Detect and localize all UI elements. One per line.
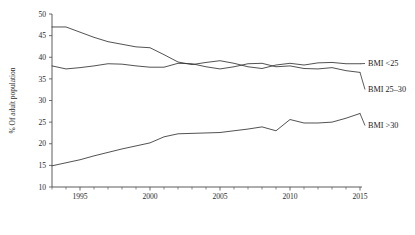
series-label-bmi-25: BMI <25 (368, 59, 398, 68)
y-tick-label: 45 (38, 31, 46, 40)
y-tick-label: 25 (38, 118, 46, 127)
series-label-leader (360, 72, 365, 89)
series-label-bmi-30: BMI >30 (368, 121, 398, 130)
chart-container: 101520253035404550 19952000200520102015 … (0, 0, 415, 235)
y-tick-label: 30 (38, 96, 46, 105)
series-label-bmi-25-30: BMI 25–30 (368, 85, 406, 94)
y-tick-label: 35 (38, 75, 46, 84)
y-tick-label: 15 (38, 161, 46, 170)
y-tick-label: 10 (38, 183, 46, 192)
y-axis-title: % Of adult population (8, 67, 17, 133)
series-line (52, 113, 360, 165)
y-tick-label: 20 (38, 139, 46, 148)
x-axis: 19952000200520102015 (52, 187, 368, 201)
series-line (52, 27, 360, 69)
x-tick-label: 2005 (212, 192, 227, 201)
y-axis-title-group: % Of adult population (8, 67, 17, 133)
line-chart-plot: 101520253035404550 19952000200520102015 … (0, 0, 415, 235)
series-group (52, 27, 360, 166)
series-line (52, 63, 360, 72)
x-tick-label: 2000 (142, 192, 157, 201)
y-axis: 101520253035404550 (38, 10, 52, 192)
y-tick-label: 40 (38, 53, 46, 62)
y-tick-label: 50 (38, 10, 46, 19)
x-tick-label: 1995 (72, 192, 87, 201)
series-labels-group: BMI <25BMI 25–30BMI >30 (360, 59, 406, 130)
x-tick-label: 2010 (282, 192, 297, 201)
series-label-leader (360, 113, 365, 125)
x-tick-label: 2015 (352, 192, 367, 201)
